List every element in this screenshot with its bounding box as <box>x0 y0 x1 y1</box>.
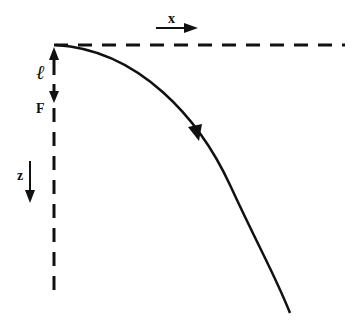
z-axis-label: z <box>17 168 23 183</box>
z-direction-arrow-icon <box>25 161 35 203</box>
force-arrow-icon <box>49 84 59 103</box>
length-arrow-icon <box>49 47 59 75</box>
diagram-svg: x z ℓ F <box>0 0 359 333</box>
trajectory-direction-arrow-icon <box>188 124 202 141</box>
x-axis-label: x <box>168 11 175 26</box>
force-label: F <box>36 101 45 116</box>
trajectory-curve <box>56 45 290 313</box>
x-direction-arrow-icon <box>156 23 198 33</box>
diagram-canvas: x z ℓ F <box>0 0 359 333</box>
length-label: ℓ <box>36 61 45 83</box>
